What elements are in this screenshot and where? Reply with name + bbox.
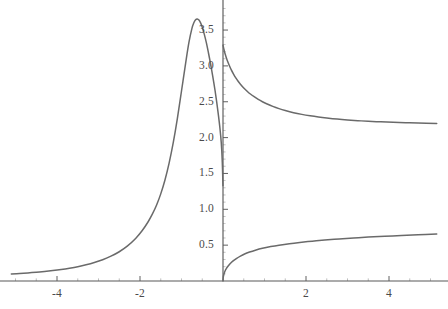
y-tick-label: 1.5 bbox=[0, 168, 214, 180]
y-tick-label: 0.5 bbox=[0, 239, 214, 251]
x-tick-label: 2 bbox=[303, 288, 309, 300]
plot-canvas bbox=[0, 0, 448, 309]
curve-branch-right-lower bbox=[223, 234, 437, 281]
y-tick-label: 3.0 bbox=[0, 60, 214, 72]
plot-figure: 0.51.01.52.02.53.03.5-4-224 bbox=[0, 0, 448, 309]
y-tick-label: 2.0 bbox=[0, 132, 214, 144]
y-tick-label: 2.5 bbox=[0, 96, 214, 108]
x-tick-label: -4 bbox=[52, 288, 62, 300]
curve-branch-left bbox=[11, 19, 223, 274]
y-tick-label: 1.0 bbox=[0, 204, 214, 216]
x-tick-label: 4 bbox=[386, 288, 392, 300]
y-tick-label: 3.5 bbox=[0, 24, 214, 36]
curve-branch-right-upper bbox=[223, 45, 437, 123]
x-tick-label: -2 bbox=[135, 288, 145, 300]
